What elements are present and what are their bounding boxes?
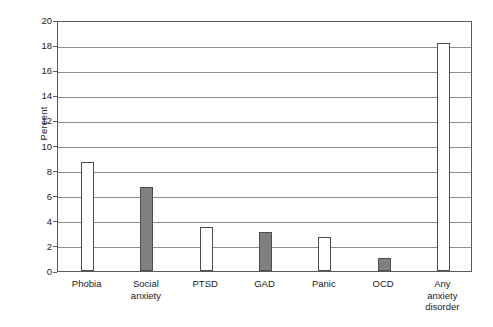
- gridline: [58, 172, 471, 173]
- y-axis-tick-label: 4: [28, 216, 52, 227]
- y-axis-tick-label: 2: [28, 241, 52, 252]
- bar-chart: Percent 02468101214161820 PhobiaSocial a…: [0, 0, 493, 327]
- x-axis-label: Phobia: [55, 278, 119, 290]
- y-axis-tick-label: 20: [28, 15, 52, 26]
- gridline: [58, 197, 471, 198]
- bar: [140, 187, 153, 271]
- gridline: [58, 222, 471, 223]
- plot-area: [57, 21, 472, 272]
- x-axis-label: Any anxiety disorder: [410, 278, 474, 313]
- gridline: [58, 47, 471, 48]
- x-axis-label: PTSD: [173, 278, 237, 290]
- y-axis-tick-label: 0: [28, 266, 52, 277]
- bar: [378, 258, 391, 271]
- gridline: [58, 147, 471, 148]
- y-axis-tick-label: 12: [28, 115, 52, 126]
- y-axis-tick-label: 10: [28, 141, 52, 152]
- x-axis-label: OCD: [351, 278, 415, 290]
- bar: [437, 43, 450, 271]
- x-axis-label: Panic: [292, 278, 356, 290]
- y-axis-tick-label: 16: [28, 65, 52, 76]
- bar: [318, 237, 331, 271]
- bar: [81, 162, 94, 271]
- gridline: [58, 97, 471, 98]
- y-axis-tick-label: 14: [28, 90, 52, 101]
- y-axis-tick-label: 8: [28, 166, 52, 177]
- bar: [200, 227, 213, 271]
- y-axis-tick-label: 6: [28, 191, 52, 202]
- x-axis-label: Social anxiety: [114, 278, 178, 301]
- y-axis-tick-label: 18: [28, 40, 52, 51]
- bar: [259, 232, 272, 271]
- x-axis-label: GAD: [233, 278, 297, 290]
- gridline: [58, 72, 471, 73]
- gridline: [58, 122, 471, 123]
